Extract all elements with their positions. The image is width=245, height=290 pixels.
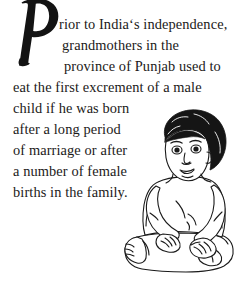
- passage-line-4: eat the first excrement of a male: [13, 80, 202, 94]
- passage-line-5: child if he was born: [13, 101, 129, 115]
- passage-line-9: births in the family.: [13, 185, 128, 199]
- passage-line-3: province of Punjab used to: [64, 59, 221, 73]
- drop-cap-p: [18, 0, 62, 68]
- passage-line-1: rior to India‘s independence,: [59, 17, 227, 31]
- passage-line-6: after a long period: [13, 122, 121, 136]
- page-canvas: rior to India‘s independence, grandmothe…: [0, 0, 245, 290]
- passage-line-7: of marriage or after: [13, 143, 127, 157]
- drop-cap-p-glyph: [19, 0, 58, 66]
- passage-line-2: grandmothers in the: [62, 38, 179, 52]
- passage-line-8: a number of female: [13, 164, 127, 178]
- passage-text-block: rior to India‘s independence, grandmothe…: [0, 0, 245, 210]
